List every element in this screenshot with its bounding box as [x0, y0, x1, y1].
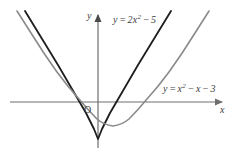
x-axis-label: x	[220, 104, 224, 115]
equation-dark-constant: 5	[151, 14, 156, 25]
equation-gray-exponent: 2	[182, 82, 186, 90]
parabola-figure: y x O y=2x2−5 y=x2−x−3	[0, 0, 233, 159]
equation-gray-operator-2: −	[202, 83, 209, 94]
equation-gray-operator-1: −	[187, 83, 194, 94]
equation-label-curve-dark: y=2x2−5	[113, 13, 156, 25]
equation-gray-linear-term: x	[196, 83, 201, 94]
equation-gray-constant: 3	[210, 83, 215, 94]
equation-dark-operator: −	[143, 14, 150, 25]
equation-dark-lhs: y	[113, 14, 118, 25]
equation-dark-exponent: 2	[137, 13, 141, 21]
equation-label-curve-gray: y=x2−x−3	[163, 82, 216, 94]
origin-label: O	[84, 104, 91, 115]
equation-gray-equals: =	[169, 83, 176, 94]
equation-dark-equals: =	[119, 14, 126, 25]
y-axis-label: y	[87, 10, 91, 21]
equation-gray-lhs: y	[163, 83, 168, 94]
